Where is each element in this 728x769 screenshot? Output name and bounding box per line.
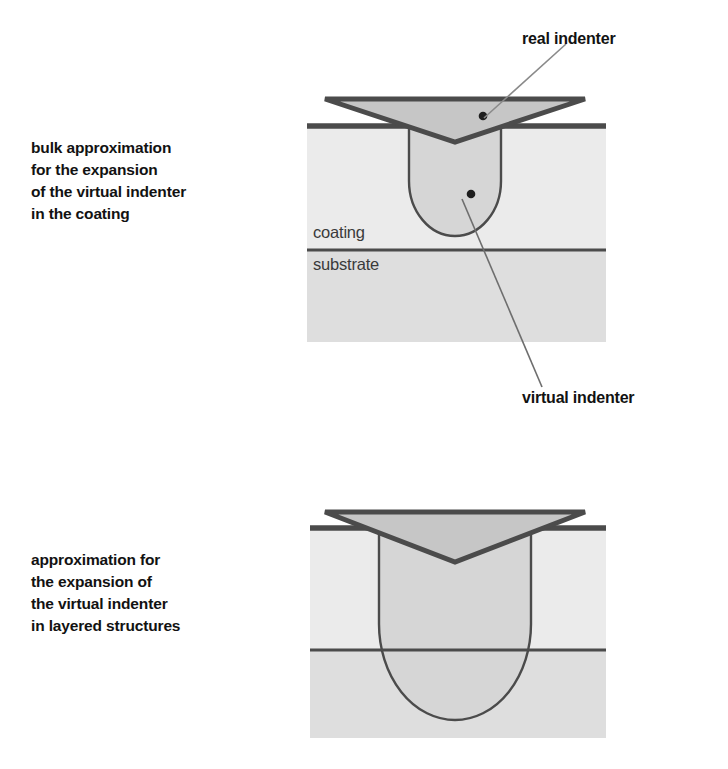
bulk-approximation-diagram	[296, 84, 606, 354]
figure-root: bulk approximation for the expansion of …	[0, 0, 728, 769]
substrate-label: substrate	[313, 255, 379, 274]
virtual-indenter-callout-label: virtual indenter	[522, 389, 634, 407]
coating-label: coating	[313, 223, 365, 242]
real-indenter-marker-dot	[479, 112, 488, 121]
layered-structure-diagram	[296, 494, 606, 750]
real-indenter-callout-label: real indenter	[522, 30, 615, 48]
virtual-indenter-marker-dot	[467, 190, 476, 199]
caption-bulk-approximation: bulk approximation for the expansion of …	[31, 137, 283, 226]
caption-layered-structures: approximation for the expansion of the v…	[31, 549, 283, 638]
